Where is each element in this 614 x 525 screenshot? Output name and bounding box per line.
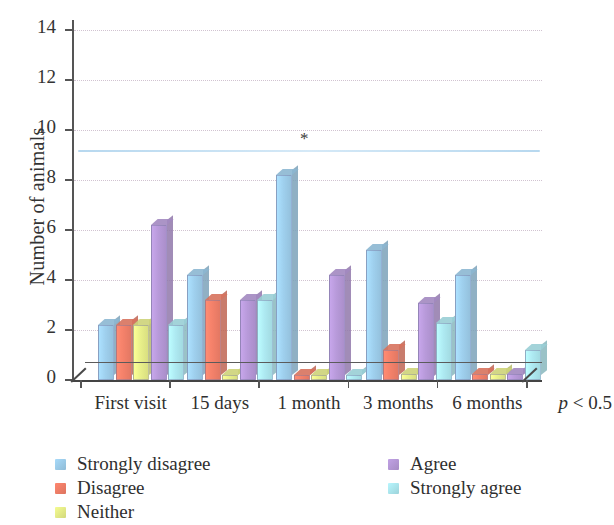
bar-face [187,275,203,380]
bar-face [133,325,149,380]
bar[interactable] [383,350,399,380]
bar[interactable] [222,375,238,380]
x-axis-labels: First visit15 days1 month3 months6 month… [72,392,614,422]
bar[interactable] [311,375,327,380]
bar-face [418,303,434,381]
bar-face [455,275,471,380]
legend-label: Strongly agree [410,477,521,499]
bar-group [175,20,264,380]
bar[interactable] [366,250,382,380]
y-axis-tick: 4 [65,279,72,281]
bar-side [292,165,298,375]
bar[interactable] [205,300,221,380]
bar[interactable] [240,300,256,380]
p-symbol: p [559,392,569,413]
x-axis-tick [258,380,260,388]
x-axis-tick [348,380,350,388]
bar[interactable] [98,325,114,380]
legend-item[interactable]: Neither [55,500,211,524]
x-axis-line [72,380,542,382]
y-axis-line [72,20,74,382]
y-axis-tick: 10 [65,129,72,131]
y-axis-tick: 6 [65,229,72,231]
bar-face [366,250,382,380]
legend-swatch [55,459,66,470]
bar[interactable] [116,325,132,380]
bar-group [354,20,443,380]
bar-side [471,265,477,375]
plot-area: 02468101214 * [72,20,542,382]
x-axis-label: 6 months [435,392,539,414]
bar-face [507,374,523,380]
bar[interactable] [401,374,417,380]
bar[interactable] [151,225,167,380]
bar-side [345,265,351,375]
legend-label: Neither [77,501,134,523]
y-axis-tick-label: 10 [37,116,56,138]
legend-label: Disagree [77,477,145,499]
legend-swatch [55,507,66,518]
bar[interactable] [133,325,149,380]
bar-face [490,374,506,380]
legend-item[interactable]: Agree [388,452,521,476]
bar[interactable] [490,374,506,380]
bar-face [472,374,488,380]
bar-face [294,375,310,380]
legend-item[interactable]: Strongly agree [388,476,521,500]
legend-swatch [388,459,399,470]
bar[interactable] [418,303,434,381]
y-axis-tick-label: 14 [37,16,56,38]
bar[interactable] [507,374,523,380]
bar-face [276,175,292,380]
y-axis-tick: 2 [65,329,72,331]
bar-face [311,375,327,380]
bar-group [86,20,175,380]
x-axis-tick [437,380,439,388]
y-axis-tick: 14 [65,29,72,31]
legend-item[interactable]: Disagree [55,476,211,500]
legend-swatch [55,483,66,494]
legend-label: Strongly disagree [77,453,211,475]
bar[interactable] [525,350,541,380]
legend-column-2: AgreeStrongly agree [388,452,521,500]
bar-face [525,350,541,380]
legend-item[interactable]: Strongly disagree [55,452,211,476]
x-axis-tick [80,380,82,388]
x-axis-tick [169,380,171,388]
bar-group [264,20,353,380]
bar[interactable] [455,275,471,380]
bar-side [221,290,227,375]
bar-face [329,275,345,380]
y-axis-tick-label: 12 [37,66,56,88]
bar-face [222,375,238,380]
legend-label: Agree [410,453,456,475]
legend-swatch [388,483,399,494]
bar-face [401,374,417,380]
bar-face [205,300,221,380]
y-axis-tick-label: 8 [47,166,57,188]
chart-figure: Number of animals 02468101214 * First vi… [0,0,614,525]
y-axis-tick: 0 [65,379,72,381]
y-axis-tick-label: 4 [47,266,57,288]
legend-column-1: Strongly disagreeDisagreeNeither [55,452,211,524]
y-axis-tick-label: 0 [47,366,57,388]
bar[interactable] [294,375,310,380]
bar-group [443,20,532,380]
chart-legend: Strongly disagreeDisagreeNeither AgreeSt… [55,452,575,522]
significance-line [78,150,540,152]
bar[interactable] [472,374,488,380]
p-value-note: p < 0.5 [559,392,612,414]
y-axis-tick: 8 [65,179,72,181]
bar-face [240,300,256,380]
bar[interactable] [329,275,345,380]
y-axis-tick: 12 [65,79,72,81]
bar-face [151,225,167,380]
bar[interactable] [276,175,292,380]
y-axis-tick-label: 6 [47,216,57,238]
bar-face [383,350,399,380]
y-axis-tick-label: 2 [47,316,57,338]
bar-face [98,325,114,380]
bar[interactable] [187,275,203,380]
bar-face [116,325,132,380]
x-axis-tick [526,380,528,388]
